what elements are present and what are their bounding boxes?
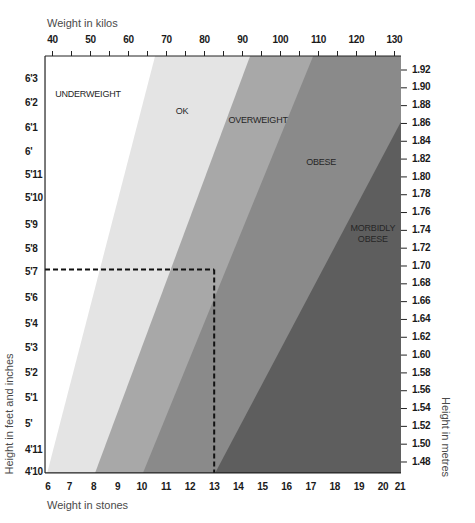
kg-tick-label: 40 [47,34,58,45]
zone-label: UNDERWEIGHT [55,89,121,99]
plot-area: UNDERWEIGHTOKOVERWEIGHTOBESEMORBIDLYOBES… [45,56,401,473]
stone-tick-label: 19 [354,481,365,492]
metre-tick-label: 1.70 [412,260,431,271]
x-top-axis-title: Weight in kilos [47,17,118,29]
metre-tick-label: 1.50 [412,438,431,449]
stone-tick-label: 8 [91,481,97,492]
metre-tick-label: 1.86 [412,117,431,128]
y-left-axis-title: Height in feet and inches [3,353,15,475]
metre-tick-label: 1.80 [412,171,431,182]
stone-tick-label: 16 [281,481,292,492]
kg-tick-label: 120 [349,34,366,45]
metre-tick-label: 1.78 [412,188,431,199]
kg-tick-label: 100 [273,34,290,45]
kg-tick-label: 110 [311,34,327,45]
kg-tick-label: 80 [199,34,210,45]
feet-inches-tick-label: 5'4 [25,318,38,329]
stone-tick-label: 11 [161,481,172,492]
feet-inches-tick-label: 5'8 [25,243,38,254]
stone-tick-label: 20 [378,481,389,492]
metre-tick-label: 1.74 [412,224,431,235]
metre-tick-label: 1.92 [412,64,431,75]
kg-tick-label: 50 [85,34,96,45]
feet-inches-tick-label: 6'2 [25,97,38,108]
kg-tick-label: 90 [237,34,248,45]
zone-label: OBESE [306,157,336,167]
metre-tick-label: 1.62 [412,331,431,342]
stone-tick-label: 14 [233,481,244,492]
zone-label: MORBIDLY [350,223,395,233]
x-bottom-axis-title: Weight in stones [47,499,129,511]
feet-inches-tick-label: 5'11 [25,169,43,180]
stone-tick-label: 10 [137,481,148,492]
zone-label: OVERWEIGHT [228,115,288,125]
metre-tick-label: 1.88 [412,99,431,110]
feet-inches-tick-label: 6'1 [25,122,38,133]
stone-tick-label: 13 [209,481,220,492]
zone-label: OK [176,106,189,116]
stone-tick-label: 18 [330,481,341,492]
stone-tick-label: 21 [395,481,406,492]
feet-inches-tick-label: 4'10 [25,466,44,477]
feet-inches-tick-label: 5'7 [25,266,38,277]
metre-tick-label: 1.64 [412,313,431,324]
stone-tick-label: 15 [257,481,268,492]
kg-tick-label: 130 [387,34,404,45]
kg-tick-label: 70 [161,34,172,45]
metre-tick-label: 1.76 [412,206,431,217]
stone-tick-label: 17 [305,481,316,492]
y-right-axis-title: Height in metres [440,397,452,478]
stone-tick-label: 9 [115,481,121,492]
feet-inches-tick-label: 5'10 [25,192,44,203]
feet-inches-tick-label: 5'3 [25,342,38,353]
zone-label: OBESE [358,234,388,244]
metre-tick-label: 1.54 [412,402,431,413]
feet-inches-tick-label: 5'1 [25,392,38,403]
stone-tick-label: 12 [185,481,196,492]
feet-inches-tick-label: 6' [25,146,32,157]
metre-tick-label: 1.56 [412,384,431,395]
metre-tick-label: 1.90 [412,81,431,92]
metre-tick-label: 1.52 [412,420,431,431]
feet-inches-tick-label: 4'11 [25,444,43,455]
stone-tick-label: 6 [45,481,51,492]
feet-inches-tick-label: 5'9 [25,219,38,230]
metre-tick-label: 1.84 [412,135,431,146]
metre-tick-label: 1.66 [412,295,431,306]
metre-tick-label: 1.48 [412,456,431,467]
feet-inches-tick-label: 5'6 [25,292,38,303]
feet-inches-tick-label: 6'3 [25,73,38,84]
metre-tick-label: 1.60 [412,349,431,360]
bmi-chart: UNDERWEIGHTOKOVERWEIGHTOBESEMORBIDLYOBES… [0,0,475,523]
metre-tick-label: 1.58 [412,367,431,378]
metre-tick-label: 1.72 [412,242,431,253]
metre-tick-label: 1.82 [412,153,431,164]
metre-tick-label: 1.68 [412,277,431,288]
feet-inches-tick-label: 5' [25,418,32,429]
stone-tick-label: 7 [67,481,73,492]
kg-tick-label: 60 [123,34,134,45]
feet-inches-tick-label: 5'2 [25,367,38,378]
